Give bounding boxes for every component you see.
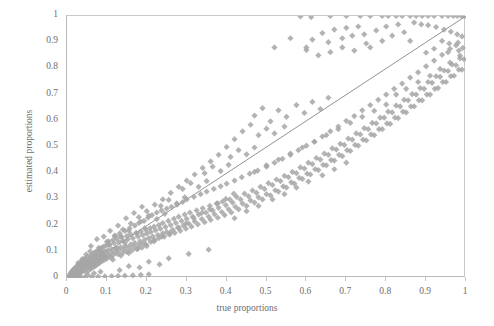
scatter-point xyxy=(311,139,317,145)
scatter-point xyxy=(433,24,439,30)
scatter-point xyxy=(407,38,413,44)
scatter-point xyxy=(109,273,115,278)
scatter-point xyxy=(389,109,395,115)
scatter-point xyxy=(439,16,445,19)
scatter-point xyxy=(154,216,160,222)
scatter-point xyxy=(413,16,419,19)
scatter-point xyxy=(243,208,249,214)
scatter-point xyxy=(305,178,311,184)
scatter-point xyxy=(407,16,413,19)
scatter-point xyxy=(367,16,373,19)
y-tick-label: 0 xyxy=(20,272,58,282)
scatter-point xyxy=(385,16,391,19)
scatter-point xyxy=(427,73,433,79)
scatter-point xyxy=(443,79,449,85)
scatter-point xyxy=(373,27,379,33)
scatter-point xyxy=(208,158,214,164)
scatter-point xyxy=(231,215,237,221)
x-tick-label: 0 xyxy=(64,287,69,297)
scatter-point xyxy=(191,194,197,200)
plot-area xyxy=(66,15,465,277)
scatter-point xyxy=(243,151,249,157)
scatter-point xyxy=(211,186,217,192)
scatter-point xyxy=(327,128,333,134)
scatter-point xyxy=(227,154,233,160)
scatter-point xyxy=(139,204,145,210)
scatter-point xyxy=(351,47,357,53)
scatter-point xyxy=(308,16,314,20)
scatter-point xyxy=(327,16,333,19)
scatter-point xyxy=(146,259,152,265)
scatter-point xyxy=(439,38,445,44)
x-axis-title: true proportions xyxy=(0,303,494,313)
scatter-point xyxy=(427,92,433,98)
x-tick-label: 0.5 xyxy=(260,287,272,297)
scatter-point xyxy=(158,203,164,209)
scatter-point xyxy=(371,108,377,114)
scatter-point xyxy=(166,197,172,203)
scatter-point xyxy=(224,144,230,150)
scatter-point xyxy=(357,16,363,19)
scatter-point xyxy=(445,68,451,74)
scatter-point xyxy=(359,114,365,120)
scatter-point xyxy=(117,267,123,273)
scatter-point xyxy=(204,188,210,194)
x-tick-label: 0.6 xyxy=(299,287,311,297)
scatter-point xyxy=(196,184,202,190)
y-tick-label: 0.9 xyxy=(20,36,58,46)
x-tick-label: 0.4 xyxy=(220,287,232,297)
x-tick-label: 0.8 xyxy=(379,287,391,297)
scatter-point xyxy=(101,234,107,240)
scatter-point xyxy=(425,22,431,28)
scatter-point xyxy=(403,86,409,92)
scatter-point xyxy=(131,210,137,216)
scatter-point xyxy=(160,196,166,202)
scatter-point xyxy=(102,273,108,278)
x-tick-label: 1 xyxy=(463,287,468,297)
scatter-point xyxy=(383,101,389,107)
scatter-point xyxy=(309,36,315,42)
scatter-point xyxy=(126,263,132,269)
scatter-point xyxy=(445,16,451,19)
scatter-point xyxy=(281,191,287,197)
scatter-point xyxy=(431,46,437,52)
scatter-point xyxy=(231,177,237,183)
scatter-point xyxy=(202,170,208,176)
scatter-point xyxy=(94,236,100,242)
scatter-point xyxy=(375,97,381,103)
scatter-point xyxy=(239,174,245,180)
scatter-point xyxy=(439,52,445,58)
scatter-point xyxy=(218,183,224,189)
scatter-point xyxy=(218,168,224,174)
scatter-point xyxy=(397,103,403,109)
scatter-point xyxy=(123,215,129,221)
y-tick-label: 0.8 xyxy=(20,63,58,73)
scatter-point xyxy=(267,118,273,124)
scatter-point xyxy=(206,247,212,253)
scatter-point xyxy=(407,74,413,80)
scatter-point xyxy=(373,120,379,126)
scatter-point xyxy=(393,92,399,98)
scatter-point xyxy=(437,74,443,80)
scatter-point xyxy=(379,126,385,132)
scatter-point xyxy=(423,63,429,69)
scatter-point xyxy=(138,272,144,278)
scatter-point xyxy=(393,16,399,19)
scatter-point xyxy=(425,16,431,19)
scatter-point xyxy=(122,273,128,278)
scatter-point xyxy=(297,16,303,20)
scatter-point xyxy=(381,115,387,121)
scatter-point xyxy=(251,144,257,150)
scatter-point xyxy=(448,29,454,35)
scatter-point xyxy=(224,181,230,187)
scatter-point xyxy=(423,50,429,56)
scatter-point xyxy=(331,27,337,33)
scatter-point xyxy=(343,16,349,19)
scatter-point xyxy=(429,80,435,86)
scatter-point xyxy=(363,40,369,46)
scatter-point xyxy=(446,40,452,46)
scatter-point xyxy=(186,251,192,257)
scatter-point xyxy=(431,16,437,19)
scatter-point xyxy=(399,16,405,19)
scatter-point xyxy=(367,102,373,108)
